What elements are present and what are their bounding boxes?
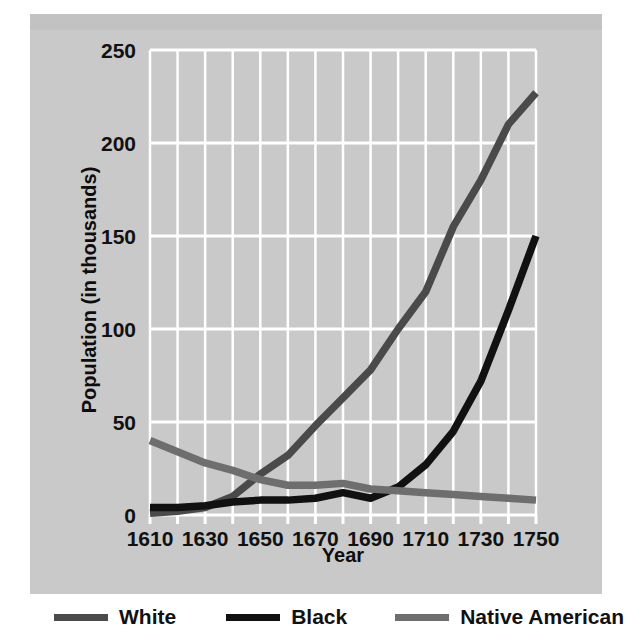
y-tick-label: 0	[124, 504, 136, 527]
figure-root: 050100150200250 161016301650167016901710…	[0, 0, 635, 637]
plot-wrapper: 050100150200250 161016301650167016901710…	[0, 0, 635, 637]
x-tick-label: 1750	[513, 527, 560, 550]
legend-label-white: White	[119, 605, 176, 629]
legend-item-black: Black	[226, 605, 347, 629]
y-tick-label: 200	[101, 132, 136, 155]
chart-legend: White Black Native American	[30, 600, 605, 634]
line-chart: 050100150200250 161016301650167016901710…	[0, 0, 635, 637]
vertical-gridlines	[150, 50, 536, 515]
x-tick-label: 1630	[182, 527, 229, 550]
x-tick-label: 1710	[402, 527, 449, 550]
legend-swatch-white	[54, 614, 108, 621]
y-tick-label: 100	[101, 318, 136, 341]
y-axis-title: Population (in thousands)	[78, 167, 100, 414]
x-tick-label: 1610	[127, 527, 174, 550]
y-tick-label: 250	[101, 39, 136, 62]
legend-swatch-native-american	[395, 614, 449, 621]
x-tick-label: 1730	[457, 527, 504, 550]
x-tick-label: 1650	[237, 527, 284, 550]
y-tick-labels: 050100150200250	[101, 39, 136, 527]
y-tick-label: 50	[113, 411, 136, 434]
legend-label-black: Black	[291, 605, 347, 629]
legend-item-native-american: Native American	[395, 605, 624, 629]
y-tick-label: 150	[101, 225, 136, 248]
legend-label-native-american: Native American	[460, 605, 624, 629]
legend-item-white: White	[54, 605, 176, 629]
legend-swatch-black	[226, 614, 280, 621]
x-axis-title: Year	[322, 544, 364, 566]
